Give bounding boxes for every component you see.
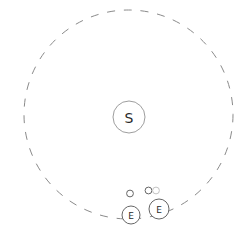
moon-circle-1 [127,190,134,197]
moon-circle-3 [153,187,160,194]
orbit-diagram-svg: SEE [0,0,251,241]
earth-label-1: E [128,211,134,221]
orbit-diagram: SEE [0,0,251,241]
moon-circle-2 [145,187,152,194]
earth-label-2: E [156,205,162,215]
sun-label: S [125,110,134,126]
